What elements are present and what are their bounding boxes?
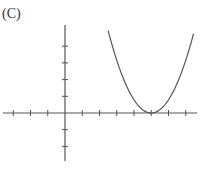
- coordinate-plane: [0, 0, 204, 172]
- parabola-curve: [108, 31, 193, 113]
